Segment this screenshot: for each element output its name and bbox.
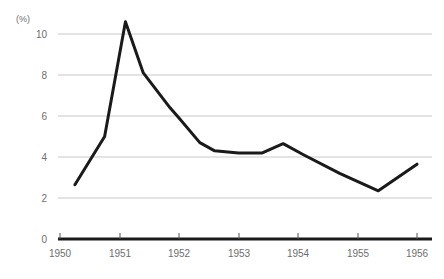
xtick-label-1955: 1955 bbox=[347, 248, 370, 259]
ytick-label-8: 8 bbox=[41, 70, 47, 81]
y-axis-unit-label: (%) bbox=[16, 14, 30, 24]
line-chart: 10 8 6 4 2 0 (%) 1950 1951 1952 1953 1 bbox=[0, 0, 444, 279]
ytick-label-6: 6 bbox=[41, 111, 47, 122]
xtick-label-1956: 1956 bbox=[406, 248, 429, 259]
xtick-label-1950: 1950 bbox=[49, 248, 72, 259]
xtick-label-1951: 1951 bbox=[109, 248, 132, 259]
xtick-label-1952: 1952 bbox=[168, 248, 191, 259]
ytick-label-0: 0 bbox=[41, 234, 47, 245]
chart-canvas: 10 8 6 4 2 0 (%) 1950 1951 1952 1953 1 bbox=[0, 0, 444, 279]
ytick-label-10: 10 bbox=[36, 29, 48, 40]
chart-background bbox=[0, 0, 444, 279]
ytick-label-2: 2 bbox=[41, 193, 47, 204]
xtick-label-1954: 1954 bbox=[287, 248, 310, 259]
xtick-label-1953: 1953 bbox=[228, 248, 251, 259]
ytick-label-4: 4 bbox=[41, 152, 47, 163]
